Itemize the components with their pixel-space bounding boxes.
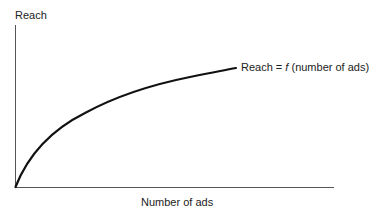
y-axis-label: Reach (15, 9, 47, 21)
x-axis-label: Number of ads (141, 196, 213, 208)
curve-annotation: Reach = f (number of ads) (241, 61, 369, 73)
curve-annotation-suffix: (number of ads) (288, 61, 369, 73)
curve-annotation-prefix: Reach = (241, 61, 285, 73)
chart-plot (0, 0, 379, 215)
reach-curve (16, 68, 237, 187)
